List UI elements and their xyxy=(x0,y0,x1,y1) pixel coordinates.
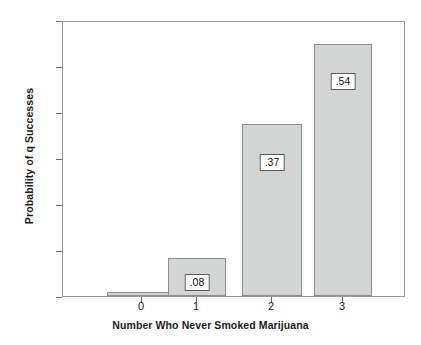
x-tick-label-3: 3 xyxy=(322,300,362,312)
value-label-category-3: .54 xyxy=(331,73,356,90)
x-axis-title: Number Who Never Smoked Marijuana xyxy=(0,319,421,331)
bar-category-0[interactable] xyxy=(107,292,177,296)
x-tick-label-2: 2 xyxy=(251,300,291,312)
bar-chart-figure: Probability of q Successes .60 .50 .40 .… xyxy=(0,0,421,345)
bar-category-2[interactable] xyxy=(242,124,302,296)
plot-area: .08 .37 .54 xyxy=(62,21,405,297)
y-tick-mark xyxy=(56,297,62,298)
x-tick-label-0: 0 xyxy=(121,300,161,312)
x-tick-label-1: 1 xyxy=(176,300,216,312)
value-label-category-2: .37 xyxy=(260,154,285,171)
y-axis-title: Probability of q Successes xyxy=(23,56,35,256)
value-label-category-1: .08 xyxy=(185,274,210,291)
